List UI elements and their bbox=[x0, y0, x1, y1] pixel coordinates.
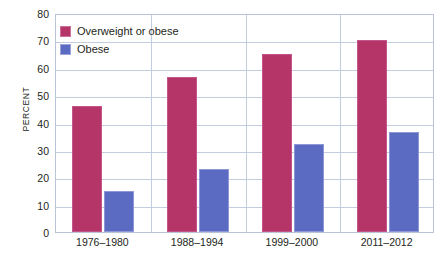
y-axis-tick-label: 30 bbox=[17, 146, 49, 157]
chart-legend: Overweight or obeseObese bbox=[60, 23, 179, 59]
y-axis-tick-label: 70 bbox=[17, 36, 49, 47]
y-axis-tick-label: 20 bbox=[17, 173, 49, 184]
bar-overweight-or-obese bbox=[262, 54, 292, 232]
x-axis-tick-label: 2011–2012 bbox=[361, 237, 413, 248]
y-axis-tick-label: 10 bbox=[17, 200, 49, 211]
legend-item-label: Obese bbox=[77, 43, 109, 55]
legend-item: Obese bbox=[60, 41, 179, 57]
bar-obese bbox=[199, 169, 229, 232]
x-axis-tick-label: 1999–2000 bbox=[266, 237, 319, 248]
x-axis-tick-label: 1976–1980 bbox=[76, 237, 129, 248]
bar-obese bbox=[389, 132, 419, 232]
y-axis-tick-label: 0 bbox=[17, 228, 49, 239]
gridline-vertical bbox=[340, 15, 341, 232]
legend-item: Overweight or obese bbox=[60, 23, 179, 39]
legend-swatch-overweight-icon bbox=[60, 26, 71, 37]
legend-item-label: Overweight or obese bbox=[77, 25, 179, 37]
y-axis-tick-label: 40 bbox=[17, 118, 49, 129]
bar-overweight-or-obese bbox=[167, 77, 197, 232]
bar-obese bbox=[104, 191, 134, 232]
y-axis-tick-label: 80 bbox=[17, 9, 49, 20]
bar-obese bbox=[294, 144, 324, 232]
gridline-vertical bbox=[246, 15, 247, 232]
bar-overweight-or-obese bbox=[72, 106, 102, 232]
y-axis-tick-label: 50 bbox=[17, 91, 49, 102]
x-axis-tick-label: 1988–1994 bbox=[171, 237, 224, 248]
legend-swatch-obese-icon bbox=[60, 44, 71, 55]
bar-chart: PERCENT 01020304050607080 1976–19801988–… bbox=[0, 0, 440, 257]
bar-overweight-or-obese bbox=[357, 40, 387, 232]
y-axis-tick-label: 60 bbox=[17, 64, 49, 75]
